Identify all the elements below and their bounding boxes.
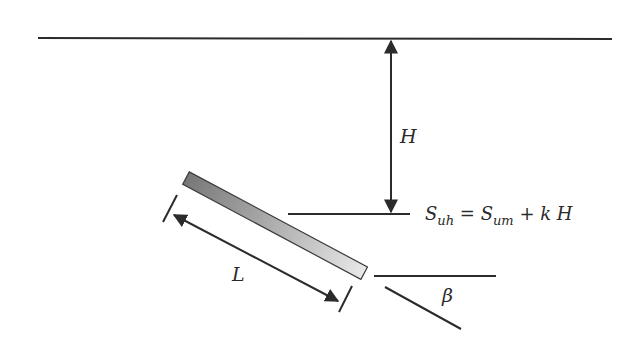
eq-lhs-sub: uh xyxy=(437,213,454,228)
ground-surface-line xyxy=(38,38,612,39)
eq-rhs-sub: um xyxy=(493,213,514,228)
length-tick-end xyxy=(339,286,352,312)
depth-label: H xyxy=(399,125,417,147)
inclined-pile xyxy=(183,172,368,279)
length-tick-start xyxy=(163,195,177,222)
eq-plus-term: + k H xyxy=(514,203,573,224)
diagram-canvas: H Suh = Sum + k H L β xyxy=(0,0,636,344)
eq-equals: = xyxy=(454,203,481,224)
eq-lhs-main: S xyxy=(425,203,437,224)
eq-rhs-main: S xyxy=(481,203,493,224)
angle-beta-label: β xyxy=(441,284,453,306)
strength-equation: Suh = Sum + k H xyxy=(425,203,573,228)
length-arrow xyxy=(174,215,338,301)
length-label: L xyxy=(231,263,245,285)
